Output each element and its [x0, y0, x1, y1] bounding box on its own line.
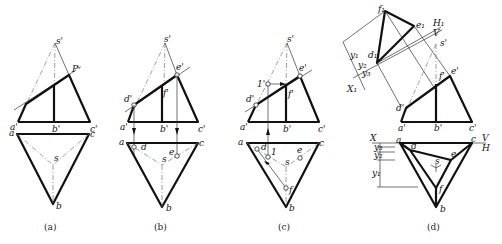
label-b-prime: b' [434, 123, 442, 133]
caption-b: (b) [154, 222, 167, 232]
label-y3: y₃ [361, 68, 371, 78]
section-triangle-def [410, 150, 451, 188]
label-X1: X₁ [346, 84, 357, 94]
panel-c: s' e' 1' d' f' a' b' c' a c d 1 e s f b … [238, 34, 326, 232]
label-a: a [119, 137, 124, 147]
label-y1-h: y₁ [371, 168, 381, 178]
label-d-prime: d' [246, 94, 254, 104]
label-c: c [471, 134, 476, 144]
point-1-prime [266, 82, 270, 86]
point-e [298, 156, 302, 160]
label-c-prime: c' [198, 124, 206, 134]
label-d-prime: d' [124, 94, 132, 104]
panel-b: s' e' d' f' a' b' c' a c d e s b (b) [119, 34, 206, 232]
label-b-prime: b' [283, 124, 291, 134]
aux-dim-line-top [343, 11, 385, 42]
point-e-prime [298, 74, 302, 78]
label-a: a [396, 135, 401, 145]
label-s-prime: s' [56, 36, 63, 46]
top-view-triangle [127, 143, 198, 207]
edge-s-a-front [128, 43, 165, 122]
point-f [284, 186, 288, 190]
point-d-prime [254, 103, 258, 107]
label-c: c [90, 129, 95, 139]
projector-e1 [414, 26, 450, 76]
label-e-prime: e' [299, 63, 307, 73]
label-e: e [169, 147, 174, 157]
arrow-up-left [264, 161, 270, 165]
label-e: e [297, 145, 302, 155]
label-b: b [289, 203, 295, 213]
label-e1: e₁ [416, 20, 425, 30]
label-s-prime: s' [440, 38, 447, 48]
label-V: V [433, 28, 441, 38]
label-s: s [162, 154, 167, 164]
panel-a: s' Pᵛ a' b' c' a c s b (a) [9, 36, 98, 232]
arrow-down-d [132, 128, 136, 135]
label-a-prime: a' [240, 122, 248, 132]
label-a: a [238, 137, 243, 147]
label-e-prime: e' [451, 66, 459, 76]
label-c: c [199, 138, 204, 148]
label-y2-h: y₂ [373, 150, 383, 160]
label-a-prime: a' [120, 122, 128, 132]
top-view-triangle [247, 143, 319, 207]
label-c: c [319, 138, 324, 148]
label-y1: y₁ [349, 50, 359, 60]
label-b: b [166, 203, 172, 213]
label-a-prime: a' [398, 123, 406, 133]
label-1: 1 [271, 147, 277, 157]
edge-s-c-front-upper [55, 43, 69, 75]
label-f-prime: f' [162, 88, 169, 98]
projection-diagram: s' Pᵛ a' b' c' a c s b (a) s' e' d' f' a… [0, 0, 502, 244]
edge-s-b-front [286, 43, 287, 84]
label-e-prime: e' [176, 62, 184, 72]
edge-a-s-top [17, 134, 53, 165]
label-plane-pv: Pᵛ [71, 64, 81, 74]
arrow-up-1 [266, 128, 270, 135]
label-H-axis: H [481, 143, 490, 153]
caption-d: (d) [427, 222, 440, 232]
label-1-prime: 1' [257, 79, 265, 89]
label-b: b [56, 201, 62, 211]
label-H1: H₁ [432, 18, 444, 28]
edge-s-b-front [164, 43, 165, 86]
projector-d1 [377, 63, 401, 107]
label-d-prime: d' [396, 103, 404, 113]
panel-d: f₁ e₁ d₁ H₁ V y₁ y₂ y₃ X₁ s' f' e' d' a'… [343, 4, 490, 232]
label-b: b [440, 204, 446, 214]
projector-f1 [385, 11, 437, 92]
caption-c: (c) [278, 222, 290, 232]
point-e [175, 154, 179, 158]
label-d: d [261, 142, 267, 152]
label-s-prime: s' [287, 34, 294, 44]
label-V-axis: V [482, 133, 490, 143]
label-s-prime: s' [164, 34, 171, 44]
label-e: e [451, 149, 456, 159]
caption-a: (a) [44, 222, 56, 232]
label-f1: f₁ [377, 4, 385, 14]
label-f-prime: f' [438, 71, 445, 81]
label-s: s [435, 156, 440, 166]
label-d: d [411, 141, 417, 151]
label-s: s [285, 157, 290, 167]
label-s: s [54, 153, 59, 163]
point-d [132, 145, 136, 149]
point-1 [266, 155, 270, 159]
label-b-prime: b' [52, 124, 60, 134]
label-c-prime: c' [469, 123, 477, 133]
label-a: a [9, 128, 14, 138]
point-d [255, 147, 259, 151]
label-b-prime: b' [160, 124, 168, 134]
label-f-prime: f' [287, 89, 294, 99]
label-d1: d₁ [368, 50, 377, 60]
arrow-down-e [175, 128, 179, 135]
label-d: d [141, 142, 147, 152]
label-c-prime: c' [318, 124, 326, 134]
